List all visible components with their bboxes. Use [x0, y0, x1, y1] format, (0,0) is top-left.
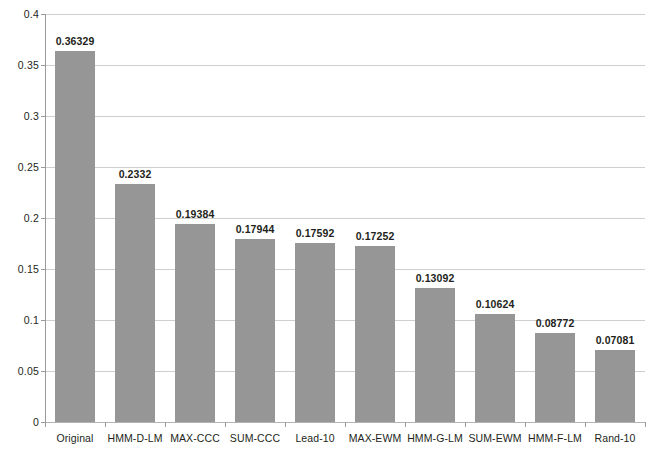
bar-chart: 00.050.10.150.20.250.30.350.4 0.363290.2… [0, 0, 660, 463]
bar-group: 0.17944 [225, 14, 285, 422]
bar-group: 0.13092 [405, 14, 465, 422]
bar [595, 350, 635, 422]
bar-group: 0.19384 [165, 14, 225, 422]
x-axis-tick-mark [405, 422, 406, 427]
bar-group: 0.10624 [465, 14, 525, 422]
bar-group: 0.36329 [45, 14, 105, 422]
bar [475, 314, 515, 422]
bar-value-label: 0.2332 [119, 168, 152, 180]
bar-value-label: 0.36329 [56, 35, 95, 47]
x-axis-category-label: HMM-D-LM [107, 432, 162, 444]
y-axis-tick-label: 0.3 [24, 110, 39, 122]
bar [235, 239, 275, 422]
bar-value-label: 0.17944 [236, 223, 275, 235]
bar-value-label: 0.07081 [596, 334, 635, 346]
bar [535, 333, 575, 422]
x-axis-category-label: MAX-EWM [349, 432, 402, 444]
y-axis-tick-labels: 00.050.10.150.20.250.30.350.4 [0, 14, 39, 423]
x-axis-category-label: Rand-10 [595, 432, 636, 444]
bar [295, 243, 335, 422]
bar-value-label: 0.10624 [476, 298, 515, 310]
x-axis-category-label: SUM-CCC [230, 432, 280, 444]
x-axis-category-label: Lead-10 [295, 432, 334, 444]
x-axis-tick-mark [165, 422, 166, 427]
y-axis-tick-label: 0.35 [18, 59, 39, 71]
bar-value-label: 0.17252 [356, 230, 395, 242]
y-axis-tick-label: 0.2 [24, 212, 39, 224]
x-axis-tick-mark [225, 422, 226, 427]
x-axis-tick-mark [465, 422, 466, 427]
y-axis-tick-label: 0.4 [24, 8, 39, 20]
bar-value-label: 0.08772 [536, 317, 575, 329]
bar-group: 0.08772 [525, 14, 585, 422]
x-axis-tick-mark [585, 422, 586, 427]
x-axis-category-label: HMM-F-LM [528, 432, 582, 444]
x-axis-tick-mark [645, 422, 646, 427]
bar-value-label: 0.17592 [296, 227, 335, 239]
x-axis-category-label: Original [57, 432, 94, 444]
x-axis-category-label: HMM-G-LM [407, 432, 463, 444]
x-axis-tick-mark [105, 422, 106, 427]
bar [355, 246, 395, 422]
bar [115, 184, 155, 422]
x-axis-tick-mark [285, 422, 286, 427]
bar-value-label: 0.19384 [176, 208, 215, 220]
y-axis-tick-label: 0 [33, 416, 39, 428]
x-axis-category-label: MAX-CCC [170, 432, 220, 444]
x-axis-category-label: SUM-EWM [468, 432, 521, 444]
y-axis-tick-label: 0.15 [18, 263, 39, 275]
y-axis-tick-label: 0.05 [18, 365, 39, 377]
bars-layer: 0.363290.23320.193840.179440.175920.1725… [45, 14, 645, 422]
bar-group: 0.07081 [585, 14, 645, 422]
y-axis-tick-label: 0.25 [18, 161, 39, 173]
bar [175, 224, 215, 422]
bar [415, 288, 455, 422]
y-axis-tick-label: 0.1 [24, 314, 39, 326]
x-axis-tick-mark [45, 422, 46, 427]
bar-group: 0.17592 [285, 14, 345, 422]
bar-group: 0.2332 [105, 14, 165, 422]
x-axis-tick-mark [345, 422, 346, 427]
bar [55, 51, 95, 422]
bar-value-label: 0.13092 [416, 272, 455, 284]
x-axis-tick-mark [525, 422, 526, 427]
bar-group: 0.17252 [345, 14, 405, 422]
